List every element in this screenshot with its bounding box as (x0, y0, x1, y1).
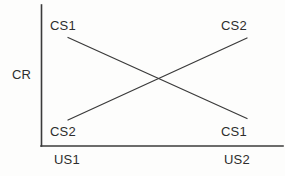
series-label-cs2-bottom-left: CS2 (50, 125, 76, 138)
series-label-cs1-bottom-right: CS1 (221, 125, 247, 138)
series-label-cs1-top-left: CS1 (50, 19, 76, 32)
series-label-cs2-top-right: CS2 (221, 19, 247, 32)
interaction-plot-figure: CR CS1 CS2 CS2 CS1 US1 US2 (0, 0, 285, 176)
y-axis-label: CR (12, 68, 31, 81)
x-axis-tick-label-us1: US1 (54, 153, 80, 166)
x-axis-tick-label-us2: US2 (224, 153, 250, 166)
